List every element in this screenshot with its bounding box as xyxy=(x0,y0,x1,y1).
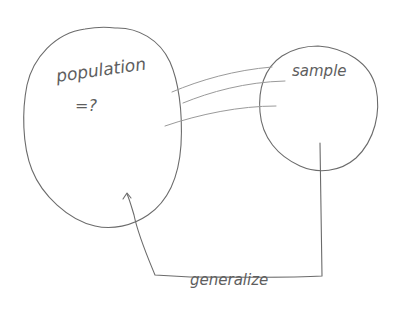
population-unknown-value: =? xyxy=(75,96,97,115)
generalize-label: generalize xyxy=(190,271,268,289)
sketch-canvas: population =? sample generalize xyxy=(0,0,394,319)
generalize-arrow xyxy=(127,143,322,277)
arrowhead-icon xyxy=(123,193,131,199)
connector-line-2 xyxy=(183,81,285,103)
population-circle xyxy=(24,27,182,227)
connector-line-1 xyxy=(172,67,272,92)
population-label: population xyxy=(54,54,147,87)
sample-label: sample xyxy=(292,62,347,80)
